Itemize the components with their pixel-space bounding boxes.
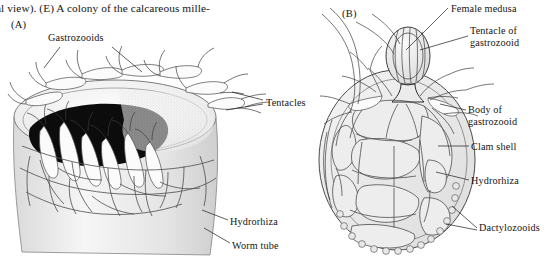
label-dactylozooids: Dactylozooids [479,222,540,234]
leader-tentacle-of-gastrozooid [420,36,468,50]
leader-tentacles-1 [232,92,263,100]
leader-worm-tube [204,228,230,243]
leader-dactylozooids-2 [446,224,477,230]
gastrozooid-group-a [27,101,163,189]
leader-hydrorhiza-a [202,210,228,220]
leader-gastrozooids-right [112,47,142,72]
label-clam-shell: Clam shell [471,141,516,153]
leader-hydrorhiza-b [436,172,469,180]
leader-dactylozooids-1 [452,206,477,228]
panel-label-a: (A) [11,19,26,30]
female-medusa-shape [386,27,430,102]
panel-a-leaders [44,47,263,243]
dactylozooid-group [337,183,460,255]
leader-tentacles-2 [226,104,263,110]
label-hydrorhiza-panel-a: Hydrorhiza [230,216,278,228]
label-hydrorhiza-panel-b: Hydrorhiza [471,175,519,187]
leader-gastrozooids-left [44,47,60,68]
leader-female-medusa [406,8,448,50]
panel-b-leaders [406,8,477,230]
label-female-medusa: Female medusa [451,3,517,15]
figure-root: al view). (E) A colony of the calcareous… [0,0,559,261]
leader-body-of-gastrozooid [440,104,466,110]
worm-tube-shape [13,80,217,255]
figure-caption: al view). (E) A colony of the calcareous… [0,2,326,15]
panel-label-b: (B) [342,8,357,19]
label-body-of-gastrozooid: Body of gastrozooid [468,104,517,127]
hydrorhiza-network-a [20,146,216,216]
label-tentacles: Tentacles [266,97,306,109]
hydrorhiza-network-b [332,100,452,248]
label-worm-tube: Worm tube [232,240,279,252]
clam-shell-shape [319,70,475,250]
label-tentacle-of-gastrozooid: Tentacle of gastrozooid [470,25,519,48]
label-gastrozooids: Gastrozooids [48,32,104,44]
rim-polyp-group-a [8,46,270,113]
